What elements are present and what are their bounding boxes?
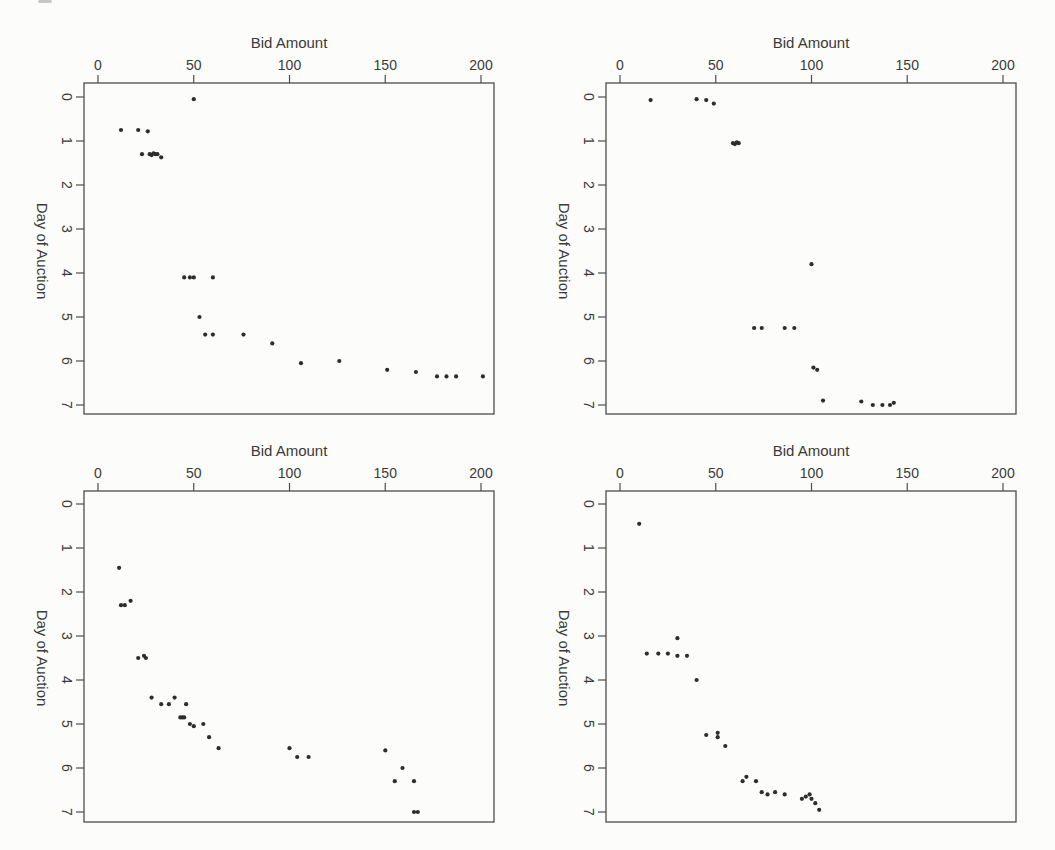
data-point — [444, 374, 448, 378]
data-point — [197, 315, 201, 319]
data-point — [712, 102, 716, 106]
x-tick-label: 100 — [278, 465, 302, 481]
y-tick-label: 4 — [581, 676, 597, 684]
x-tick-label: 0 — [616, 465, 624, 481]
data-point — [136, 656, 140, 660]
data-point — [192, 275, 196, 279]
x-tick-label: 200 — [991, 465, 1015, 481]
y-tick-label: 6 — [59, 357, 75, 365]
data-point — [155, 152, 159, 156]
x-tick-label: 0 — [94, 465, 102, 481]
data-point — [337, 359, 341, 363]
data-point — [144, 656, 148, 660]
data-point — [167, 702, 171, 706]
data-point — [383, 748, 387, 752]
data-point — [888, 403, 892, 407]
data-point — [880, 403, 884, 407]
data-point — [295, 755, 299, 759]
x-tick-label: 50 — [186, 57, 202, 73]
data-point — [159, 155, 163, 159]
y-tick-label: 3 — [581, 225, 597, 233]
data-point — [637, 522, 641, 526]
y-tick-label: 2 — [59, 181, 75, 189]
y-tick-label: 2 — [581, 181, 597, 189]
y-tick-label: 4 — [581, 269, 597, 277]
y-tick-label: 4 — [59, 676, 75, 684]
x-tick-label: 100 — [800, 57, 824, 73]
y-tick-label: 3 — [59, 632, 75, 640]
data-point — [129, 599, 133, 603]
data-point — [150, 696, 154, 700]
data-point — [182, 275, 186, 279]
data-point — [435, 374, 439, 378]
x-tick-label: 150 — [374, 57, 398, 73]
data-point — [871, 403, 875, 407]
data-point — [123, 603, 127, 607]
data-point — [716, 735, 720, 739]
data-point — [211, 333, 215, 337]
data-point — [817, 808, 821, 812]
x-axis-title: Bid Amount — [773, 442, 851, 459]
y-tick-label: 7 — [59, 808, 75, 816]
x-tick-label: 0 — [616, 57, 624, 73]
y-tick-label: 4 — [59, 269, 75, 277]
data-point — [783, 792, 787, 796]
data-point — [804, 795, 808, 799]
data-point — [307, 755, 311, 759]
data-point — [760, 790, 764, 794]
data-point — [859, 399, 863, 403]
data-point — [675, 654, 679, 658]
data-point — [800, 797, 804, 801]
data-point — [385, 368, 389, 372]
data-point — [666, 652, 670, 656]
y-axis-title: Day of Auction — [34, 203, 51, 300]
data-point — [808, 792, 812, 796]
data-point — [188, 722, 192, 726]
panel-top-right: Bid Amount05010015020001234567Day of Auc… — [528, 0, 1055, 425]
plot-frame — [606, 83, 1016, 414]
data-point — [136, 128, 140, 132]
data-point — [159, 702, 163, 706]
data-point — [695, 97, 699, 101]
x-tick-label: 200 — [469, 465, 493, 481]
data-point — [744, 775, 748, 779]
data-point — [765, 792, 769, 796]
y-tick-label: 6 — [59, 764, 75, 772]
data-point — [809, 797, 813, 801]
data-point — [182, 715, 186, 719]
y-axis-title: Day of Auction — [556, 610, 573, 707]
data-point — [792, 326, 796, 330]
data-point — [412, 810, 416, 814]
x-axis-title: Bid Amount — [251, 442, 329, 459]
data-point — [811, 366, 815, 370]
data-point — [773, 790, 777, 794]
data-point — [217, 746, 221, 750]
y-tick-label: 3 — [581, 632, 597, 640]
data-point — [416, 810, 420, 814]
panel-bottom-right: Bid Amount05010015020001234567Day of Auc… — [528, 425, 1055, 850]
data-point — [645, 652, 649, 656]
y-tick-label: 5 — [581, 720, 597, 728]
y-tick-label: 6 — [581, 764, 597, 772]
y-tick-label: 1 — [581, 544, 597, 552]
scatter-plot-top-left: Bid Amount05010015020001234567Day of Auc… — [0, 0, 527, 425]
plot-frame — [84, 83, 494, 414]
data-point — [454, 374, 458, 378]
data-point — [704, 98, 708, 102]
scatter-plot-figure: Bid Amount05010015020001234567Day of Auc… — [0, 0, 1055, 850]
y-tick-label: 0 — [59, 93, 75, 101]
x-tick-label: 50 — [708, 465, 724, 481]
x-tick-label: 50 — [708, 57, 724, 73]
data-point — [146, 129, 150, 133]
data-point — [892, 401, 896, 405]
y-tick-label: 7 — [581, 401, 597, 409]
x-tick-label: 50 — [186, 465, 202, 481]
y-tick-label: 5 — [581, 313, 597, 321]
data-point — [656, 652, 660, 656]
data-point — [192, 97, 196, 101]
data-point — [287, 746, 291, 750]
y-axis-title: Day of Auction — [556, 203, 573, 300]
data-point — [695, 678, 699, 682]
data-point — [741, 779, 745, 783]
data-point — [737, 141, 741, 145]
